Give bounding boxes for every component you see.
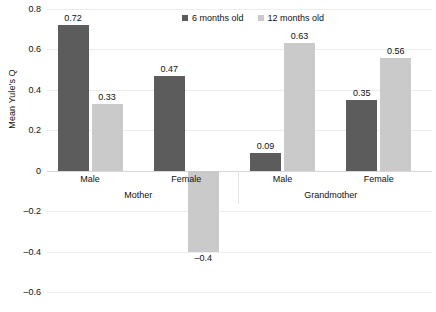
x-axis-group-label: Grandmother: [271, 190, 391, 200]
bar: [346, 100, 377, 171]
x-axis-category-label: Female: [146, 174, 226, 184]
bar-value-label: 0.09: [244, 141, 287, 151]
gridline: [47, 211, 432, 212]
y-axis-tick-label: 0.6: [28, 44, 41, 54]
bar-value-label: 0.35: [340, 88, 383, 98]
y-axis-tick-label: 0.4: [28, 85, 41, 95]
bar-value-label: –0.4: [182, 253, 225, 263]
bar: [58, 25, 89, 171]
bar-value-label: 0.56: [374, 46, 417, 56]
bar-value-label: 0.33: [86, 92, 129, 102]
gridline: [47, 9, 432, 10]
x-axis-category-label: Male: [50, 174, 130, 184]
bar-value-label: 0.63: [278, 31, 321, 41]
y-axis-tick-label: 0: [36, 166, 41, 176]
y-axis-tick-label: 0.8: [28, 4, 41, 14]
bar-value-label: 0.47: [148, 64, 191, 74]
gridline: [47, 171, 432, 172]
y-axis-tick-label: 0.2: [28, 125, 41, 135]
bar: [284, 43, 315, 170]
y-axis-tick-label: –0.4: [23, 247, 41, 257]
gridline: [47, 252, 432, 253]
bar: [250, 153, 281, 171]
plot-area: 0.80.60.40.20–0.2–0.4–0.60.720.330.47–0.…: [47, 9, 432, 292]
y-axis-tick-label: –0.6: [23, 287, 41, 297]
bar: [380, 58, 411, 171]
x-axis-category-label: Male: [243, 174, 323, 184]
x-axis-group-label: Mother: [78, 190, 198, 200]
x-axis-category-label: Female: [339, 174, 419, 184]
bar-chart: Mean Yule's Q 6 months old 12 months old…: [0, 0, 436, 312]
bar: [154, 76, 185, 171]
y-axis-title: Mean Yule's Q: [7, 39, 17, 159]
gridline: [47, 292, 432, 293]
y-axis-tick-label: –0.2: [23, 206, 41, 216]
bar-value-label: 0.72: [52, 13, 95, 23]
bar: [92, 104, 123, 171]
group-separator: [238, 172, 239, 204]
